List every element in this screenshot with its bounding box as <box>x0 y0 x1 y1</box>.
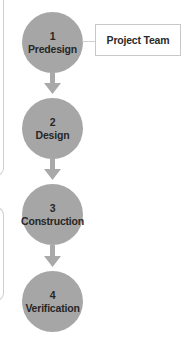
down-arrow-icon <box>44 245 61 267</box>
phase-node-2: 2 Design <box>22 98 83 159</box>
phase-number: 2 <box>50 116 56 129</box>
phase-label: Predesign <box>28 43 77 56</box>
phase-number: 4 <box>50 289 56 302</box>
project-team-box: Project Team <box>95 24 181 56</box>
phase-number: 1 <box>50 30 56 43</box>
phase-label: Design <box>36 129 70 142</box>
phase-bracket-top <box>0 0 4 176</box>
phase-bracket-bottom <box>0 207 4 301</box>
connector-line <box>82 41 95 42</box>
phase-number: 3 <box>50 202 56 215</box>
phase-node-4: 4 Verification <box>22 271 83 332</box>
project-team-label: Project Team <box>107 34 170 46</box>
phase-node-1: 1 Predesign <box>22 12 83 73</box>
phase-label: Verification <box>25 302 79 315</box>
phase-label: Construction <box>21 215 84 228</box>
phase-node-3: 3 Construction <box>22 184 83 245</box>
down-arrow-icon <box>44 72 61 94</box>
down-arrow-icon <box>44 158 61 180</box>
